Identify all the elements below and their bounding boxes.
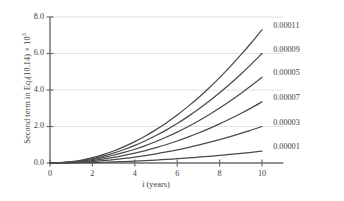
x-axis-label: i (years): [50, 180, 262, 189]
x-tick-label: 4: [123, 170, 147, 178]
chart-figure: Second term in Eq.(10.14) × 103 0.02.04.…: [0, 0, 344, 201]
series-label-0.00009: 0.00009: [273, 46, 300, 54]
series-label-0.00005: 0.00005: [273, 69, 300, 77]
series-label-0.00007: 0.00007: [273, 94, 300, 102]
x-tick-label: 0: [38, 170, 62, 178]
x-tick-label: 8: [208, 170, 232, 178]
x-tick-label: 2: [80, 170, 104, 178]
series-label-0.00003: 0.00003: [273, 119, 300, 127]
series-label-0.00011: 0.00011: [273, 22, 299, 30]
x-tick-label: 10: [250, 170, 274, 178]
series-label-0.00001: 0.00001: [273, 143, 300, 151]
x-tick-label: 6: [165, 170, 189, 178]
